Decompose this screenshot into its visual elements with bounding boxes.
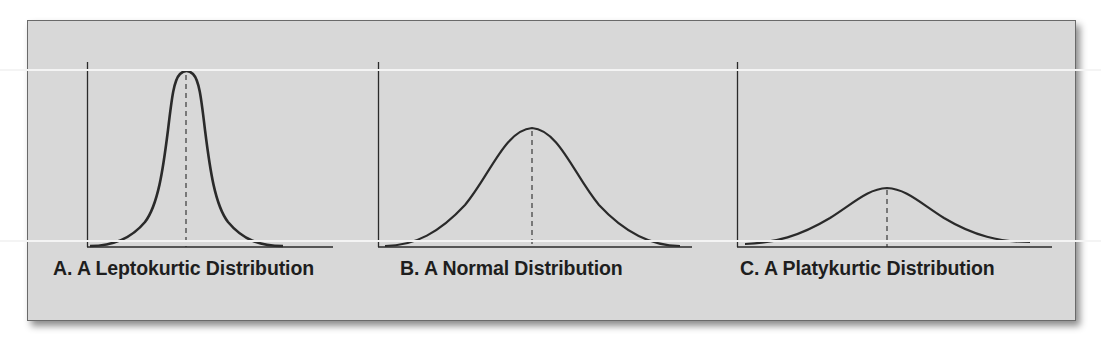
panel-b-normal xyxy=(378,62,692,247)
scan-line xyxy=(0,240,1101,242)
scan-line xyxy=(0,69,1101,71)
distribution-plots xyxy=(0,0,1101,342)
panel-c-label: C. A Platykurtic Distribution xyxy=(740,257,995,280)
panel-b-label: B. A Normal Distribution xyxy=(400,257,623,280)
panel-c-platykurtic xyxy=(737,62,1052,247)
panel-a-leptokurtic xyxy=(87,62,333,247)
panel-a-label: A. A Leptokurtic Distribution xyxy=(53,257,314,280)
